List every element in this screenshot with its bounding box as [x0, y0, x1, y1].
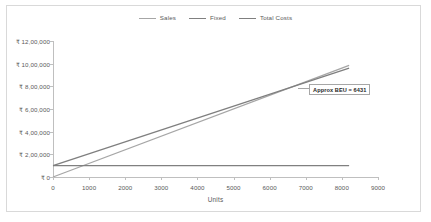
y-axis-tick-label: ₹ 0 [2, 174, 50, 181]
x-axis-title: Units [0, 196, 431, 203]
x-axis-tick-label: 3000 [154, 184, 168, 191]
series-line-total-costs [53, 68, 349, 165]
x-axis-tick-label: 2000 [118, 184, 132, 191]
x-axis-tick-mark [234, 177, 235, 180]
x-axis-tick-mark [306, 177, 307, 180]
y-axis-tick-label: ₹ 10,00,000 [2, 60, 50, 67]
x-axis-tick-mark [378, 177, 379, 180]
annotation-leader-line [298, 88, 309, 89]
y-axis-tick-label: ₹ 4,00,000 [2, 128, 50, 135]
x-axis-tick-mark [342, 177, 343, 180]
x-axis-tick-mark [53, 177, 54, 180]
x-axis-tick-mark [270, 177, 271, 180]
x-axis-tick-mark [89, 177, 90, 180]
y-axis-tick-labels: ₹ 0₹ 2,00,000₹ 4,00,000₹ 6,00,000₹ 8,00,… [0, 41, 50, 177]
x-axis-tick-label: 8000 [335, 184, 349, 191]
x-axis-tick-mark [161, 177, 162, 180]
x-axis-tick-label: 0 [51, 184, 55, 191]
annotation-breakeven-label: Approx BEU = 6431 [309, 84, 370, 95]
y-axis-tick-label: ₹ 2,00,000 [2, 151, 50, 158]
y-axis-tick-label: ₹ 6,00,000 [2, 106, 50, 113]
x-axis-tick-label: 9000 [371, 184, 385, 191]
chart-plot-lines [53, 41, 378, 177]
x-axis-tick-label: 1000 [82, 184, 96, 191]
series-line-sales [53, 65, 349, 177]
x-axis-tick-label: 5000 [226, 184, 240, 191]
x-axis-tick-mark [197, 177, 198, 180]
x-axis-tick-mark [125, 177, 126, 180]
x-axis-tick-label: 7000 [299, 184, 313, 191]
y-axis-tick-label: ₹ 12,00,000 [2, 38, 50, 45]
y-axis-tick-label: ₹ 8,00,000 [2, 83, 50, 90]
x-axis-tick-label: 6000 [263, 184, 277, 191]
x-axis-tick-labels: 0100020003000400050006000700080009000 [53, 177, 378, 197]
break-even-chart: Sales Fixed Total Costs ₹ 0₹ 2,00,000₹ 4… [0, 0, 431, 222]
x-axis-tick-label: 4000 [190, 184, 204, 191]
